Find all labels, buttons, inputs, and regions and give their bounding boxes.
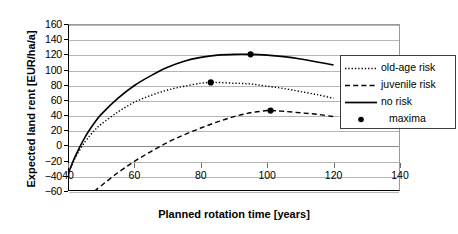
legend-marker-filled-circle: [341, 112, 381, 126]
x-tick-label: 60: [114, 170, 154, 181]
x-tick-mark: [334, 163, 335, 168]
x-axis-label: Planned rotation time [years]: [68, 208, 400, 220]
chart-legend: old-age riskjuvenile riskno riskmaxima: [340, 55, 456, 129]
x-tick-mark: [68, 163, 69, 168]
legend-marker-solid-line: [341, 95, 381, 109]
legend-label: maxima: [381, 113, 426, 124]
x-tick-mark: [400, 163, 401, 168]
x-tick-label: 140: [380, 170, 420, 181]
x-tick-mark: [134, 163, 135, 168]
legend-row: maxima: [341, 110, 455, 127]
x-tick-label: 100: [247, 170, 287, 181]
x-tick-mark: [267, 163, 268, 168]
x-tick-label: 120: [314, 170, 354, 181]
legend-marker-dotted-line: [341, 61, 381, 75]
x-tick-label: 40: [48, 170, 88, 181]
legend-row: juvenile risk: [341, 76, 455, 93]
chart-figure: Expected land rent [EUR/ha/a] −60−40−200…: [0, 0, 458, 234]
x-tick-mark: [201, 163, 202, 168]
legend-marker-dashed-line: [341, 78, 381, 92]
legend-label: old-age risk: [381, 62, 435, 73]
legend-label: no risk: [381, 96, 412, 107]
legend-row: no risk: [341, 93, 455, 110]
legend-row: old-age risk: [341, 59, 455, 76]
legend-label: juvenile risk: [381, 79, 436, 90]
x-tick-label: 80: [181, 170, 221, 181]
